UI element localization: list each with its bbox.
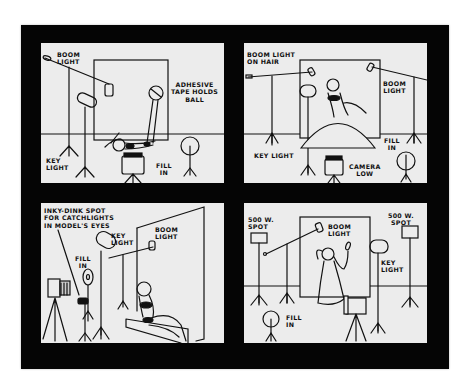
- label-boom-light: BOOM LIGHT: [383, 80, 406, 95]
- label-fill-in: FILL IN: [384, 137, 400, 152]
- panel-top-left: BOOM LIGHT ADHESIVE TAPE HOLDS BALL KEY …: [41, 43, 224, 183]
- label-boom-light: BOOM LIGHT: [155, 226, 178, 241]
- label-inky-dink-spot: INKY-DINK SPOT FOR CATCHLIGHTS IN MODEL'…: [44, 207, 114, 229]
- label-boom-light-on-hair: BOOM LIGHT ON HAIR: [247, 51, 295, 66]
- spot-light-right-icon: [402, 226, 418, 307]
- camera-icon: [325, 156, 343, 183]
- fill-in-light-icon: [263, 311, 279, 341]
- model-figure: [126, 282, 188, 343]
- panel-bottom-right: 500 W. SPOT BOOM LIGHT 500 W. SPOT KEY L…: [244, 203, 427, 343]
- label-500w-spot-right: 500 W. SPOT: [388, 212, 414, 227]
- camera-icon: [43, 279, 88, 341]
- label-boom-light: BOOM LIGHT: [57, 51, 80, 66]
- label-camera-low: CAMERA LOW: [349, 163, 381, 178]
- boom-light-icon: [109, 241, 155, 309]
- label-key-light: KEY LIGHT: [111, 232, 134, 247]
- inky-dink-spot-icon: [78, 298, 88, 304]
- label-fill-in: FILL IN: [75, 255, 91, 270]
- label-key-light: KEY LIGHT: [46, 157, 69, 172]
- boom-light-icon: [43, 55, 113, 156]
- panel-bottom-left: INKY-DINK SPOT FOR CATCHLIGHTS IN MODEL'…: [41, 203, 224, 343]
- label-key-light: KEY LIGHT: [381, 259, 404, 274]
- label-500w-spot-left: 500 W. SPOT: [248, 216, 274, 231]
- panel-top-right: BOOM LIGHT ON HAIR BOOM LIGHT FILL IN KE…: [244, 43, 427, 183]
- fill-in-light-icon: [397, 152, 415, 182]
- label-key-light: KEY LIGHT: [254, 152, 294, 159]
- spot-light-left-icon: [251, 233, 267, 305]
- fill-in-light-icon: [79, 269, 93, 341]
- camera-icon: [344, 296, 366, 341]
- label-fill-in: FILL IN: [156, 162, 172, 177]
- fill-in-light-icon: [181, 137, 199, 176]
- camera-icon: [122, 153, 144, 183]
- label-adhesive-tape: ADHESIVE TAPE HOLDS BALL: [171, 81, 218, 103]
- label-fill-in: FILL IN: [286, 314, 302, 329]
- label-boom-light: BOOM LIGHT: [328, 223, 351, 238]
